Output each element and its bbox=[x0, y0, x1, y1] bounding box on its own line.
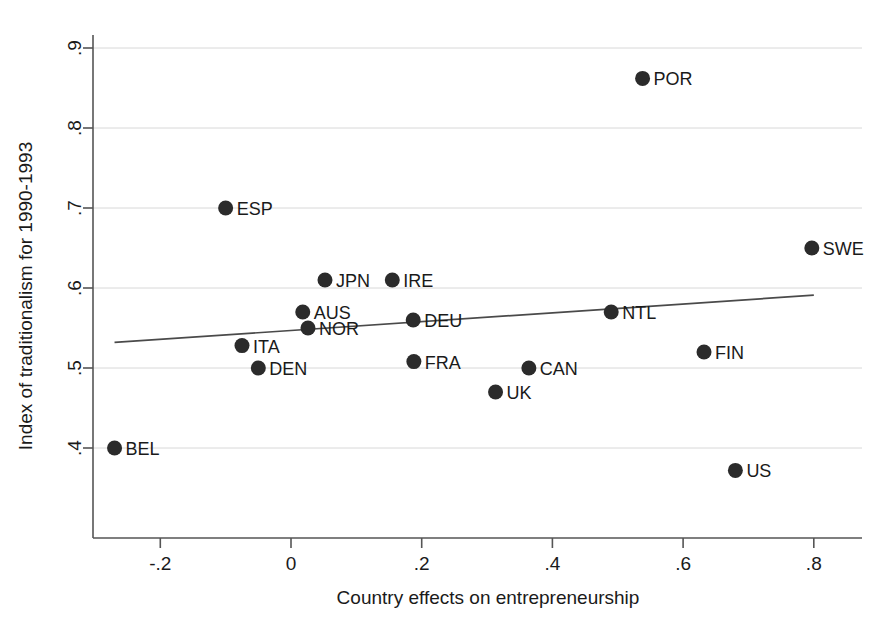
data-point: DEU bbox=[406, 311, 463, 331]
point-marker bbox=[385, 273, 400, 288]
data-point: ITA bbox=[234, 337, 279, 357]
x-tick-label: .2 bbox=[414, 553, 430, 574]
point-label: NTL bbox=[622, 303, 656, 323]
point-label: JPN bbox=[336, 271, 370, 291]
point-marker bbox=[488, 385, 503, 400]
y-tick-label: .6 bbox=[64, 280, 85, 296]
data-point: POR bbox=[635, 69, 693, 89]
data-point: NOR bbox=[300, 319, 359, 339]
data-point: US bbox=[728, 461, 772, 481]
x-tick-label: .8 bbox=[806, 553, 822, 574]
data-point: BEL bbox=[107, 439, 160, 459]
point-label: ITA bbox=[253, 337, 280, 357]
point-label: FRA bbox=[425, 353, 461, 373]
data-point: NTL bbox=[604, 303, 657, 323]
point-marker bbox=[251, 361, 266, 376]
y-tick-label: .5 bbox=[64, 360, 85, 376]
point-marker bbox=[604, 305, 619, 320]
data-point: CAN bbox=[521, 359, 578, 379]
point-marker bbox=[521, 361, 536, 376]
point-marker bbox=[406, 313, 421, 328]
y-tick-label: .7 bbox=[64, 200, 85, 216]
gridlines bbox=[93, 48, 862, 448]
point-label: CAN bbox=[540, 359, 578, 379]
point-label: ESP bbox=[237, 199, 273, 219]
x-tick-label: .4 bbox=[544, 553, 560, 574]
x-tick-label: -.2 bbox=[149, 553, 171, 574]
point-label: NOR bbox=[319, 319, 359, 339]
x-tick-label: .6 bbox=[675, 553, 691, 574]
point-marker bbox=[218, 201, 233, 216]
point-marker bbox=[728, 463, 743, 478]
point-label: DEU bbox=[424, 311, 462, 331]
x-axis-ticks: -.20.2.4.6.8 bbox=[149, 538, 822, 574]
point-marker bbox=[317, 273, 332, 288]
point-label: US bbox=[746, 461, 771, 481]
y-tick-label: .4 bbox=[64, 440, 85, 456]
point-label: DEN bbox=[269, 359, 307, 379]
data-point: SWE bbox=[804, 239, 864, 259]
point-label: UK bbox=[507, 383, 532, 403]
point-marker bbox=[107, 441, 122, 456]
point-marker bbox=[295, 305, 310, 320]
point-marker bbox=[635, 71, 650, 86]
point-marker bbox=[804, 241, 819, 256]
fit-line bbox=[115, 295, 814, 342]
data-point: UK bbox=[488, 383, 532, 403]
data-point: DEN bbox=[251, 359, 308, 379]
data-point: FIN bbox=[697, 343, 745, 363]
data-point: FRA bbox=[406, 353, 461, 373]
x-axis-label: Country effects on entrepreneurship bbox=[337, 587, 640, 608]
y-tick-label: .9 bbox=[64, 40, 85, 56]
point-label: FIN bbox=[715, 343, 744, 363]
point-marker bbox=[234, 338, 249, 353]
point-marker bbox=[697, 345, 712, 360]
x-tick-label: 0 bbox=[286, 553, 297, 574]
point-label: BEL bbox=[126, 439, 160, 459]
point-label: SWE bbox=[823, 239, 864, 259]
point-marker bbox=[406, 354, 421, 369]
scatter-plot: -.20.2.4.6.8 .4.5.6.7.8.9 BELESPITADENAU… bbox=[0, 0, 888, 626]
point-marker bbox=[300, 321, 315, 336]
point-label: IRE bbox=[403, 271, 433, 291]
data-points: BELESPITADENAUSNORJPNIREDEUFRAUKCANNTLPO… bbox=[107, 69, 864, 481]
y-axis-ticks: .4.5.6.7.8.9 bbox=[64, 40, 94, 456]
y-axis-label: Index of traditionalism for 1990-1993 bbox=[15, 142, 36, 450]
y-tick-label: .8 bbox=[64, 120, 85, 136]
data-point: ESP bbox=[218, 199, 273, 219]
point-label: POR bbox=[654, 69, 693, 89]
regression-line bbox=[115, 295, 814, 342]
